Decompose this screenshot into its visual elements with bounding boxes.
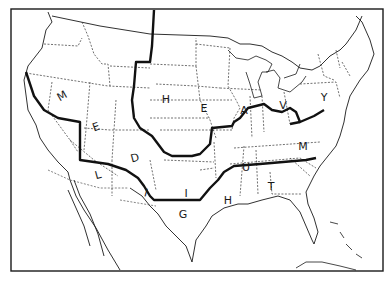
map-container: M E D I U M H E A V Y L I G H T: [0, 0, 388, 281]
map-frame: [11, 9, 383, 271]
zone-letter-heavy-y: Y: [321, 92, 328, 103]
zone-letter-light-h: H: [224, 195, 232, 206]
state-borders: [26, 22, 350, 196]
zone-letter-light-g: G: [179, 209, 188, 220]
zone-letter-heavy-a: A: [240, 105, 248, 116]
mexico-borders: [48, 170, 156, 206]
zone-letter-heavy-h: H: [162, 94, 170, 105]
zone-letter-light-i: I: [184, 188, 187, 199]
cuba: [296, 262, 356, 270]
zone-letter-medium-m2: M: [298, 141, 308, 152]
zone-letter-light-t: T: [268, 181, 275, 192]
us-map-graphic: [0, 0, 388, 281]
zone-letter-heavy-e: E: [201, 103, 208, 114]
zone-letter-medium-u: U: [242, 162, 250, 173]
zone-letter-heavy-v: V: [279, 100, 287, 111]
bahamas: [330, 222, 362, 258]
coastline: [24, 12, 374, 270]
northern-border: [52, 16, 362, 70]
great-lakes: [228, 50, 306, 98]
